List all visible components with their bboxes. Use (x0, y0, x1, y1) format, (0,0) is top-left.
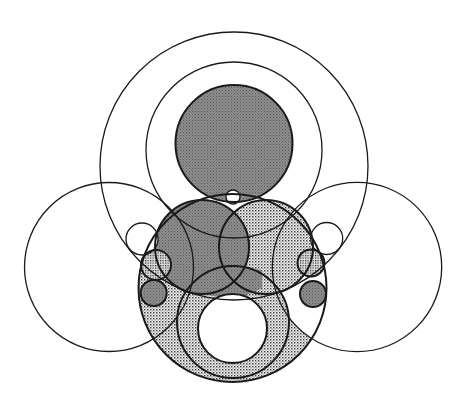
circles-diagram (0, 0, 468, 409)
